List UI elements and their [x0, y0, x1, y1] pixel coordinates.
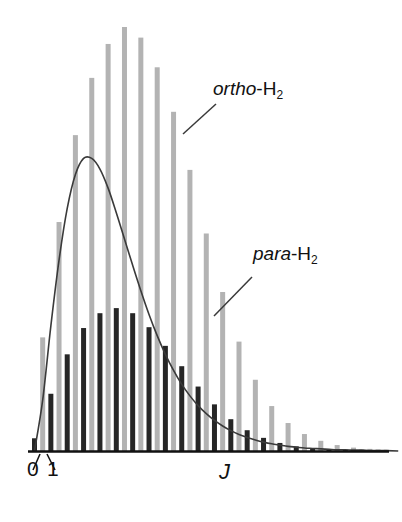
- ortho-leader-line: [183, 104, 216, 134]
- ortho-bar: [106, 44, 111, 451]
- para-label-roman: -H: [291, 243, 311, 264]
- para-label-subscript: 2: [311, 253, 318, 267]
- para-bar: [114, 308, 119, 451]
- para-bar: [261, 438, 266, 451]
- ortho-bar: [171, 112, 176, 451]
- ortho-label-roman: -H: [256, 78, 276, 99]
- para-bar: [81, 328, 86, 451]
- ortho-bar: [204, 233, 209, 451]
- para-bar: [163, 346, 168, 451]
- para-bar: [212, 404, 217, 451]
- ortho-label-subscript: 2: [276, 88, 283, 102]
- ortho-h2-label: ortho-H2: [213, 78, 283, 100]
- para-bar: [130, 313, 135, 451]
- x-axis-label: J: [219, 459, 230, 485]
- para-bar: [48, 394, 53, 451]
- annotation-leader-lines: [183, 104, 252, 316]
- para-label-italic: para: [253, 243, 291, 264]
- para-bar: [196, 387, 201, 451]
- population-distribution-chart: [0, 0, 402, 522]
- para-leader-line: [214, 277, 252, 316]
- para-bar: [179, 366, 184, 451]
- para-h2-label: para-H2: [253, 243, 318, 265]
- para-bar: [228, 419, 233, 451]
- para-bar: [65, 354, 70, 451]
- ortho-bar: [89, 78, 94, 451]
- x-tick-label-1: 1: [47, 457, 59, 481]
- ortho-bar: [155, 67, 160, 451]
- figure-container: ortho-H2 para-H2 0 1 J: [0, 0, 402, 522]
- ortho-label-italic: ortho: [213, 78, 256, 99]
- para-bar: [97, 313, 102, 451]
- x-tick-label-0: 0: [27, 457, 39, 481]
- para-bar: [147, 327, 152, 451]
- ortho-bar: [187, 170, 192, 451]
- ortho-bar: [138, 38, 143, 451]
- para-bar: [245, 430, 250, 451]
